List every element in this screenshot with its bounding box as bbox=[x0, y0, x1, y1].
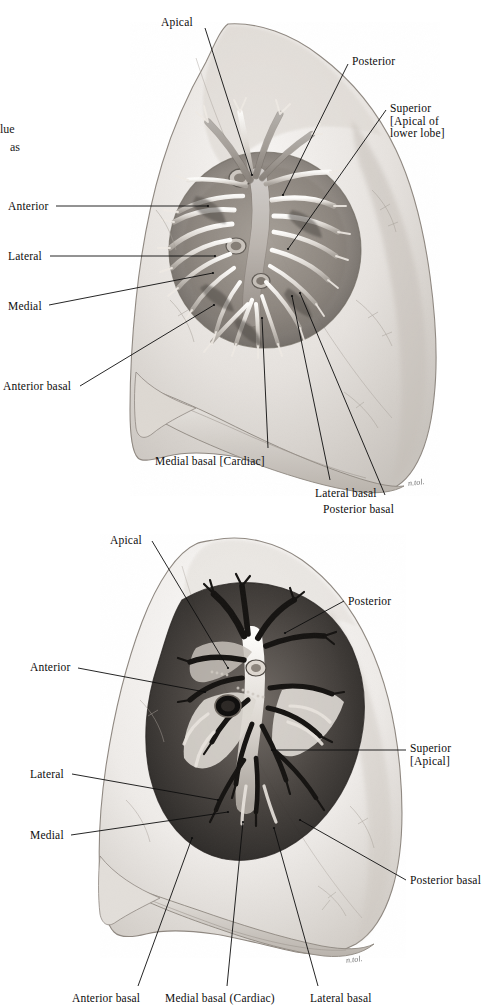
upper-figure-label-medial-basal: Medial basal [Cardiac] bbox=[155, 455, 265, 468]
leader-line-medial bbox=[49, 273, 213, 305]
lower-figure-label-anterior: Anterior bbox=[30, 661, 71, 674]
leader-line-posterior bbox=[283, 64, 348, 195]
leader-line-anterior-basal bbox=[80, 305, 214, 386]
lower-figure-label-superior: Superior [Apical] bbox=[410, 742, 451, 767]
leader-endpoint-lateral bbox=[214, 255, 216, 257]
leader-line-superior bbox=[288, 110, 386, 249]
leader-endpoint-anterior bbox=[207, 205, 209, 207]
lower-figure-artist-signature: n.tol. bbox=[346, 954, 363, 965]
leader-endpoint-anterior-basal bbox=[213, 304, 215, 306]
leader-endpoint-apical bbox=[227, 667, 229, 669]
lower-figure-label-lateral-basal: Lateral basal bbox=[310, 992, 372, 1005]
lower-figure-label-posterior: Posterior bbox=[348, 595, 391, 608]
leader-endpoint-anterior bbox=[204, 691, 206, 693]
leader-lines bbox=[0, 0, 484, 1007]
leader-line-medial-basal bbox=[227, 822, 243, 986]
upper-figure-label-lateral: Lateral bbox=[8, 250, 42, 263]
leader-line-posterior-basal bbox=[300, 820, 406, 880]
upper-figure-label-lateral-basal: Lateral basal bbox=[315, 487, 377, 500]
leader-endpoint-anterior-basal bbox=[191, 837, 193, 839]
leader-endpoint-medial-basal bbox=[261, 317, 263, 319]
leader-endpoint-superior bbox=[287, 248, 289, 250]
leader-line-anterior bbox=[78, 668, 205, 692]
anatomical-plate: ApicalPosteriorSuperior [Apical of lower… bbox=[0, 0, 484, 1007]
upper-figure-label-anterior: Anterior bbox=[8, 200, 49, 213]
leader-endpoint-lateral-basal bbox=[273, 827, 275, 829]
leader-endpoint-medial bbox=[212, 272, 214, 274]
leader-endpoint-posterior-basal bbox=[299, 819, 301, 821]
leader-line-medial-basal bbox=[262, 318, 268, 448]
leader-endpoint-apical bbox=[251, 174, 253, 176]
upper-figure-artist-signature: n.tol. bbox=[408, 477, 425, 488]
leader-line-apical bbox=[152, 541, 228, 668]
lower-figure-label-medial: Medial bbox=[30, 829, 64, 842]
leader-endpoint-posterior bbox=[284, 632, 286, 634]
lower-figure-label-apical: Apical bbox=[110, 534, 142, 547]
leader-line-anterior-basal bbox=[138, 838, 192, 986]
leader-line-lateral-basal bbox=[292, 296, 330, 480]
upper-figure-label-anterior-basal: Anterior basal bbox=[3, 380, 71, 393]
upper-figure-label-apical: Apical bbox=[161, 16, 193, 29]
leader-line-medial bbox=[71, 812, 228, 835]
leader-endpoint-lateral bbox=[217, 799, 219, 801]
margin-fragment-1: as bbox=[10, 140, 20, 155]
leader-endpoint-lateral-basal bbox=[291, 295, 293, 297]
upper-figure-label-posterior: Posterior bbox=[352, 55, 395, 68]
upper-figure-label-posterior-basal: Posterior basal bbox=[323, 503, 394, 516]
leader-endpoint-superior bbox=[271, 749, 273, 751]
leader-endpoint-posterior bbox=[282, 194, 284, 196]
leader-endpoint-medial bbox=[227, 811, 229, 813]
leader-line-lateral bbox=[72, 774, 218, 800]
leader-line-posterior bbox=[285, 601, 344, 633]
leader-line-lateral-basal bbox=[274, 828, 318, 986]
lower-figure-label-posterior-basal: Posterior basal bbox=[410, 874, 481, 887]
leader-endpoint-posterior-basal bbox=[299, 292, 301, 294]
lower-figure-label-medial-basal: Medial basal (Cardiac) bbox=[165, 992, 275, 1005]
upper-figure-label-medial: Medial bbox=[8, 300, 42, 313]
leader-line-posterior-basal bbox=[300, 293, 385, 495]
leader-endpoint-medial-basal bbox=[242, 821, 244, 823]
leader-line-apical bbox=[205, 28, 252, 175]
margin-fragment-0: lue bbox=[0, 122, 15, 137]
upper-figure-label-superior: Superior [Apical of lower lobe] bbox=[390, 102, 445, 140]
lower-figure-label-lateral: Lateral bbox=[30, 768, 64, 781]
lower-figure-label-anterior-basal: Anterior basal bbox=[72, 992, 140, 1005]
